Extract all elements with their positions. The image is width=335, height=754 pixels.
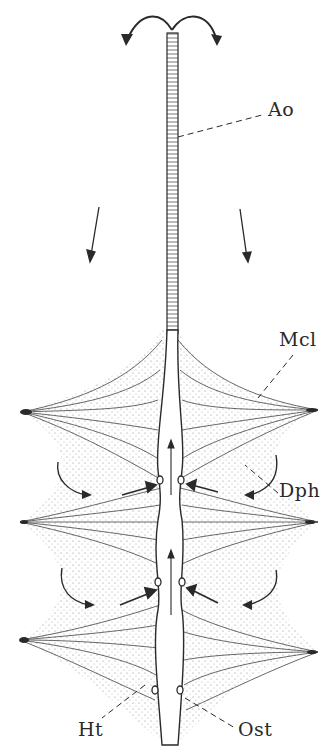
label-dorsal-diaphragm: Dph (279, 479, 320, 501)
aorta (167, 33, 178, 333)
label-aorta: Ao (268, 98, 294, 120)
label-alary-muscle: Mcl (279, 328, 317, 350)
label-ostium: Ost (238, 718, 272, 740)
outflow-arrow-right-head (211, 34, 222, 46)
outflow-arrow-left-head (121, 34, 133, 46)
label-heart: Ht (78, 718, 103, 740)
